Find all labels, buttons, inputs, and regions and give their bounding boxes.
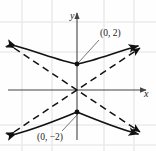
vertex-top-label: (0, 2) bbox=[100, 28, 121, 38]
y-axis-label: y bbox=[70, 10, 74, 21]
vertex-bottom-label: (0, −2) bbox=[37, 132, 63, 142]
leader-lines bbox=[62, 40, 99, 131]
graph-canvas bbox=[0, 0, 156, 151]
vertex-top-point bbox=[75, 62, 80, 67]
background-grid bbox=[0, 0, 156, 151]
vertex-bottom-point bbox=[75, 110, 80, 115]
x-axis-label: x bbox=[144, 88, 148, 99]
axis-lines bbox=[8, 13, 146, 140]
hyperbola-figure: y x (0, 2) (0, −2) bbox=[0, 0, 156, 151]
